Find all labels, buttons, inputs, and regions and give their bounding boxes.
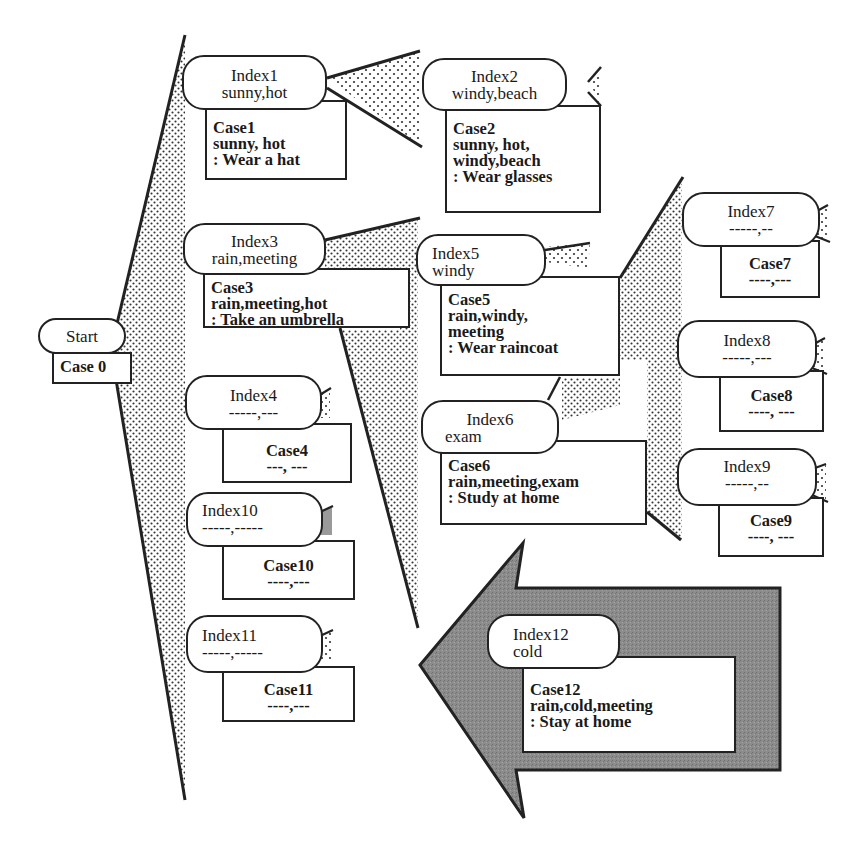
index2-keys: windy,beach (424, 85, 565, 102)
index6-keys: exam (423, 428, 557, 445)
case-index-diagram: Start Case 0 Case1 sunny, hot : Wear a h… (0, 0, 864, 849)
case12-action: : Stay at home (530, 714, 728, 730)
index4-pill[interactable]: Index4 -----,--- (185, 375, 322, 430)
index10-pill[interactable]: Index10 -----,----- (186, 492, 323, 547)
index1-keys: sunny,hot (184, 84, 325, 101)
start-label: Start (66, 327, 98, 346)
case5-action: : Wear raincoat (448, 340, 612, 356)
index7-pill[interactable]: Index7 -----,-- (682, 192, 820, 247)
index4-keys: -----,--- (187, 404, 320, 421)
index12-pill[interactable]: Index12 cold (487, 614, 620, 669)
index6-pill[interactable]: Index6 exam (421, 400, 559, 454)
index4-label: Index4 (187, 387, 320, 404)
case3-box[interactable]: Case3 rain,meeting,hot : Take an umbrell… (203, 268, 410, 328)
case1-box[interactable]: Case1 sunny, hot : Wear a hat (205, 100, 347, 180)
start-case-box[interactable]: Case 0 (52, 352, 132, 384)
case2-box[interactable]: Case2 sunny, hot, windy,beach : Wear gla… (445, 105, 601, 213)
case10-box[interactable]: Case10 ----,--- (222, 540, 355, 600)
index5-fan (545, 243, 590, 268)
index3-label: Index3 (185, 233, 324, 250)
index6-label: Index6 (423, 411, 557, 428)
index11-pill[interactable]: Index11 -----,----- (186, 615, 323, 673)
case9-features: ----, --- (726, 529, 816, 545)
case4-box[interactable]: Case4 ---, --- (222, 423, 352, 483)
index8-pill[interactable]: Index8 -----,--- (677, 320, 817, 378)
case2-action: : Wear glasses (453, 169, 593, 185)
index11-keys: -----,----- (202, 644, 321, 661)
index10-label: Index10 (202, 502, 321, 519)
case6-action: : Study at home (448, 490, 639, 506)
case5-box[interactable]: Case5 rain,windy, meeting : Wear raincoa… (440, 276, 620, 376)
case1-action: : Wear a hat (213, 152, 339, 168)
case7-box[interactable]: Case7 ----,--- (720, 240, 820, 298)
case8-features: ----, --- (727, 404, 816, 420)
index11-label: Index11 (202, 627, 321, 644)
index5-pill[interactable]: Index5 windy (416, 234, 546, 286)
case3-action: : Take an umbrella (211, 312, 402, 328)
index8-keys: -----,--- (679, 349, 815, 366)
case10-features: ----,--- (230, 574, 347, 590)
index3-keys: rain,meeting (185, 250, 324, 267)
index8-label: Index8 (679, 332, 815, 349)
index2-fan (588, 67, 601, 106)
index1-pill[interactable]: Index1 sunny,hot (182, 55, 327, 110)
index12-label: Index12 (513, 626, 618, 643)
index2-pill[interactable]: Index2 windy,beach (422, 58, 567, 111)
index5-label: Index5 (432, 245, 544, 262)
index5-keys: windy (432, 262, 544, 279)
index7-keys: -----,-- (684, 220, 818, 237)
start-fan (112, 35, 185, 800)
index9-label: Index9 (679, 458, 815, 475)
index9-pill[interactable]: Index9 -----,-- (677, 448, 817, 506)
index3-pill[interactable]: Index3 rain,meeting (183, 223, 326, 275)
index7-label: Index7 (684, 203, 818, 220)
case7-features: ----,--- (728, 272, 812, 288)
start-pill[interactable]: Start (38, 318, 126, 354)
index1-label: Index1 (184, 67, 325, 84)
index12-keys: cold (513, 643, 618, 660)
case4-features: ---, --- (230, 459, 344, 475)
index2-label: Index2 (424, 68, 565, 85)
case11-features: ----,--- (230, 698, 347, 714)
start-case-label: Case 0 (60, 357, 106, 376)
case9-box[interactable]: Case9 ----, --- (718, 497, 824, 557)
case12-box[interactable]: Case12 rain,cold,meeting : Stay at home (522, 656, 736, 753)
index10-keys: -----,----- (202, 519, 321, 536)
index9-keys: -----,-- (679, 475, 815, 492)
case11-box[interactable]: Case11 ----,--- (222, 666, 355, 722)
case8-box[interactable]: Case8 ----, --- (719, 370, 824, 432)
